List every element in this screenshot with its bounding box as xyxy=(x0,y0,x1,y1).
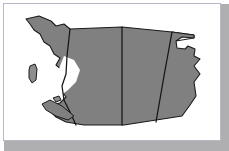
map-figure xyxy=(0,0,229,151)
haida-gwaii-island[interactable] xyxy=(29,64,37,83)
coastal-islet xyxy=(53,96,61,102)
figure-frame-border xyxy=(3,3,221,141)
western-canada-map[interactable] xyxy=(4,4,220,140)
